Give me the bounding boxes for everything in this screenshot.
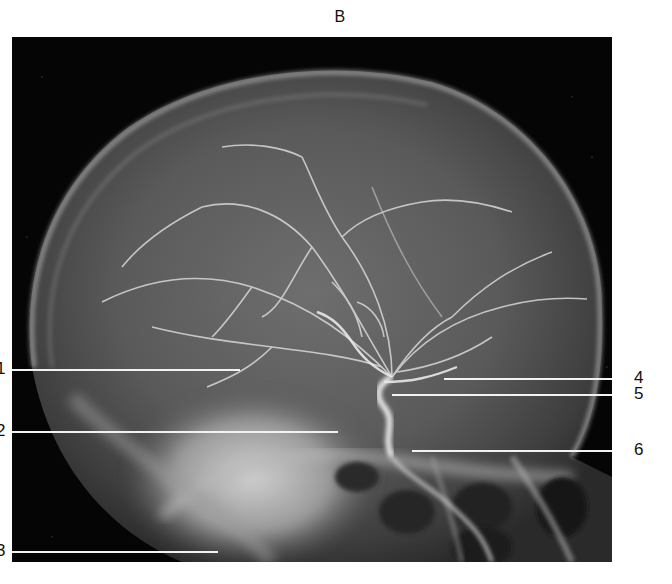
label-3: 3 <box>0 542 5 559</box>
leader-line-3 <box>12 551 218 553</box>
leader-line-2 <box>12 431 338 433</box>
label-6: 6 <box>634 441 643 458</box>
leader-line-6 <box>412 450 612 452</box>
radiograph-image <box>12 37 612 562</box>
leader-line-4 <box>444 378 612 380</box>
panel-letter: B <box>320 8 360 26</box>
label-2: 2 <box>0 422 5 439</box>
leader-line-1 <box>12 369 240 371</box>
label-1: 1 <box>0 360 5 377</box>
label-5: 5 <box>634 385 643 402</box>
leader-line-5 <box>392 394 612 396</box>
